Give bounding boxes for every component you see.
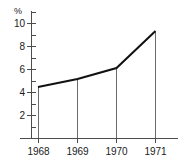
y-axis-unit-label: % (14, 6, 22, 16)
y-tick-label-2: 2 (19, 110, 25, 121)
y-tick-label-6: 6 (19, 64, 25, 75)
y-tick-label-4: 4 (19, 87, 25, 98)
x-tick-label-1970: 1970 (105, 146, 128, 157)
chart-figure: % 10 8 6 4 2 (0, 0, 181, 167)
chart-background (0, 0, 181, 167)
percentage-line-chart: % 10 8 6 4 2 (0, 0, 181, 167)
y-tick-label-10: 10 (14, 18, 26, 29)
y-tick-label-8: 8 (19, 41, 25, 52)
x-tick-label-1971: 1971 (144, 146, 167, 157)
x-tick-label-1968: 1968 (27, 146, 50, 157)
x-tick-label-1969: 1969 (66, 146, 89, 157)
